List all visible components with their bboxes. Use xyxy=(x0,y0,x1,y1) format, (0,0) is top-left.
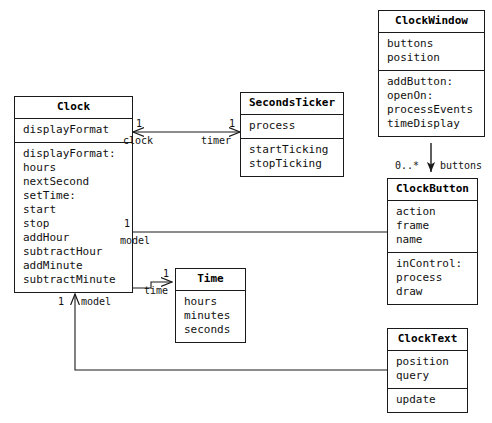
operation-row: hours xyxy=(23,161,124,175)
operation-row: stop xyxy=(23,217,124,231)
edge-label-button-model-role: model xyxy=(120,235,150,246)
class-box-secondsticker[interactable]: SecondsTicker process startTicking stopT… xyxy=(240,92,344,177)
operation-row: addButton: xyxy=(387,75,476,89)
edge-label-buttons-role: buttons xyxy=(440,160,482,171)
attribute-row: displayFormat xyxy=(23,123,124,137)
class-attributes-clocktext: position query xyxy=(388,351,467,389)
attribute-row: seconds xyxy=(184,323,237,337)
operation-row: start xyxy=(23,203,124,217)
attribute-row: name xyxy=(396,233,469,247)
edge-label-button-model-multiplicity: 1 xyxy=(124,218,130,229)
operation-row: subtractMinute xyxy=(23,273,124,287)
operation-row: draw xyxy=(396,285,469,299)
class-operations-clockwindow: addButton: openOn: processEvents timeDis… xyxy=(379,71,484,136)
edge-label-ticker-role: timer xyxy=(201,135,231,146)
class-name-clock: Clock xyxy=(15,97,132,119)
attribute-row: position xyxy=(396,355,459,369)
operation-row: addHour xyxy=(23,231,124,245)
edge-label-text-model-multiplicity: 1 xyxy=(58,296,64,307)
uml-class-diagram: Clock displayFormat displayFormat: hours… xyxy=(0,0,492,423)
class-name-clockwindow: ClockWindow xyxy=(379,11,484,33)
operation-row: nextSecond xyxy=(23,175,124,189)
class-operations-clockbutton: inControl: process draw xyxy=(388,253,477,304)
edge-label-time-multiplicity: 1 xyxy=(163,268,169,279)
class-box-time[interactable]: Time hours minutes seconds xyxy=(175,268,246,343)
operation-row: displayFormat: xyxy=(23,147,124,161)
operation-row: inControl: xyxy=(396,257,469,271)
operation-row: setTime: xyxy=(23,189,124,203)
class-name-secondsticker: SecondsTicker xyxy=(241,93,343,115)
class-box-clocktext[interactable]: ClockText position query update xyxy=(387,328,468,413)
operation-row: subtractHour xyxy=(23,245,124,259)
class-box-clockbutton[interactable]: ClockButton action frame name inControl:… xyxy=(387,178,478,305)
edge-label-ticker-multiplicity: 1 xyxy=(229,118,235,129)
edge-label-buttons-multiplicity: 0..* xyxy=(395,160,419,171)
class-operations-secondsticker: startTicking stopTicking xyxy=(241,139,343,176)
attribute-row: action xyxy=(396,205,469,219)
operation-row: update xyxy=(396,393,459,407)
operation-row: processEvents xyxy=(387,103,476,117)
class-operations-clock: displayFormat: hours nextSecond setTime:… xyxy=(15,143,132,292)
attribute-row: minutes xyxy=(184,309,237,323)
class-operations-clocktext: update xyxy=(388,389,467,412)
class-attributes-clockwindow: buttons position xyxy=(379,33,484,71)
class-name-clocktext: ClockText xyxy=(388,329,467,351)
class-name-clockbutton: ClockButton xyxy=(388,179,477,201)
attribute-row: frame xyxy=(396,219,469,233)
class-box-clockwindow[interactable]: ClockWindow buttons position addButton: … xyxy=(378,10,485,137)
attribute-row: process xyxy=(249,119,335,133)
operation-row: addMinute xyxy=(23,259,124,273)
class-name-time: Time xyxy=(176,269,245,291)
attribute-row: hours xyxy=(184,295,237,309)
operation-row: openOn: xyxy=(387,89,476,103)
class-box-clock[interactable]: Clock displayFormat displayFormat: hours… xyxy=(14,96,133,293)
edge-label-clock-multiplicity: 1 xyxy=(136,118,142,129)
attribute-row: query xyxy=(396,369,459,383)
class-attributes-clockbutton: action frame name xyxy=(388,201,477,253)
operation-row: timeDisplay xyxy=(387,117,476,131)
class-attributes-secondsticker: process xyxy=(241,115,343,139)
edge-label-clock-role: clock xyxy=(123,135,153,146)
attribute-row: buttons xyxy=(387,37,476,51)
operation-row: stopTicking xyxy=(249,157,335,171)
edge-label-text-model-role: model xyxy=(81,296,111,307)
operation-row: startTicking xyxy=(249,143,335,157)
edge-label-time-role: time xyxy=(144,285,168,296)
class-attributes-clock: displayFormat xyxy=(15,119,132,143)
operation-row: process xyxy=(396,271,469,285)
class-attributes-time: hours minutes seconds xyxy=(176,291,245,342)
attribute-row: position xyxy=(387,51,476,65)
